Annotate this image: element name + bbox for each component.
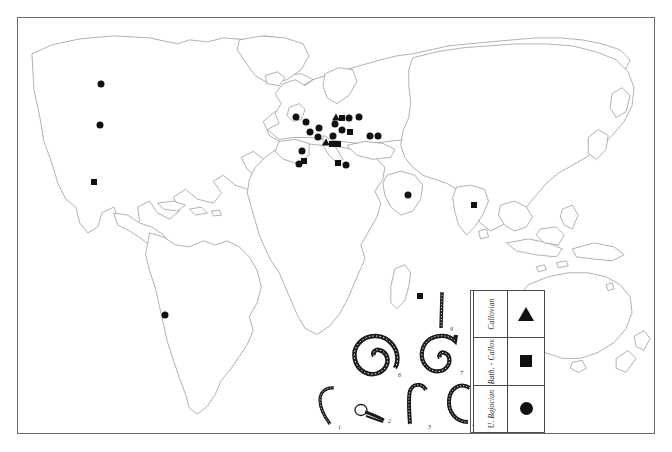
coast-puerto-rico — [211, 210, 221, 216]
fossil-illustration-plate: 1 2 3 — [314, 288, 474, 435]
fossil-num-2: 2 — [388, 418, 391, 424]
coast-new-guinea — [572, 243, 624, 261]
occurrence-marker-circle — [405, 192, 412, 199]
fossil-specimen-6 — [350, 332, 402, 380]
circle-marker-icon — [520, 402, 533, 415]
fossil-specimen-9 — [434, 290, 450, 332]
coast-india — [453, 185, 489, 235]
occurrence-marker-circle — [330, 133, 337, 140]
occurrence-marker-circle — [303, 119, 310, 126]
coast-sri-lanka — [479, 229, 489, 239]
fossil-num-6: 6 — [398, 372, 401, 378]
coast-south-america — [146, 233, 262, 414]
legend-label-bathonian-callovian: Bath. - Callov. — [486, 338, 495, 384]
fossil-num-1: 1 — [338, 424, 341, 430]
legend-label-cell-bathonian-callovian: Bath. - Callov. — [474, 338, 508, 384]
occurrence-marker-square — [335, 141, 341, 147]
legend-table: Callovian Bath. - Callov. U. Bajocian — [473, 290, 545, 433]
occurrence-marker-circle — [315, 134, 322, 141]
occurrence-marker-square — [339, 115, 345, 121]
fossil-shape-3 — [404, 380, 432, 428]
occurrence-marker-circle — [98, 81, 105, 88]
occurrence-marker-square — [91, 179, 97, 185]
legend-row-callovian: Callovian — [474, 291, 544, 338]
legend-label-cell-callovian: Callovian — [474, 291, 508, 337]
legend-symbol-cell-callovian — [508, 291, 544, 337]
occurrence-marker-circle — [367, 133, 374, 140]
legend-row-bathonian-callovian: Bath. - Callov. — [474, 338, 544, 385]
fossil-shape-1 — [316, 384, 342, 428]
coast-new-zealand — [634, 330, 650, 350]
fossil-shape-2 — [354, 402, 388, 424]
occurrence-marker-circle — [339, 127, 346, 134]
fossil-num-9: 9 — [450, 326, 453, 332]
coast-new-zealand-south — [616, 350, 636, 372]
coast-island-2 — [556, 261, 568, 268]
coast-tasmania — [570, 360, 586, 372]
occurrence-marker-circle — [316, 125, 323, 132]
figure-page: 1 2 3 — [0, 0, 672, 452]
fossil-num-7: 7 — [460, 370, 463, 376]
occurrence-marker-circle — [356, 114, 363, 121]
fossil-specimen-7 — [418, 332, 464, 380]
occurrence-marker-square — [471, 202, 477, 208]
occurrence-marker-circle — [307, 129, 314, 136]
occurrence-marker-circle — [299, 148, 306, 155]
fossil-num-3: 3 — [428, 424, 431, 430]
fossil-shape-9 — [434, 290, 450, 332]
triangle-marker-icon — [518, 307, 534, 321]
legend-symbol-cell-upper-bajocian — [508, 386, 544, 432]
legend-label-callovian: Callovian — [486, 298, 495, 329]
fossil-shape-7 — [418, 332, 464, 380]
coast-arabia — [383, 171, 423, 215]
coast-philippines — [560, 205, 578, 229]
occurrence-marker-circle — [296, 161, 303, 168]
occurrence-marker-square — [347, 129, 353, 135]
square-marker-icon — [520, 355, 532, 367]
legend-row-upper-bajocian: U. Bajocian — [474, 386, 544, 432]
fossil-specimen-3 — [404, 380, 432, 428]
occurrence-marker-circle — [346, 115, 353, 122]
occurrence-marker-circle — [332, 121, 339, 128]
occurrence-marker-circle — [375, 133, 382, 140]
occurrence-marker-circle — [293, 114, 300, 121]
occurrence-marker-circle — [97, 122, 104, 129]
occurrence-marker-circle — [162, 312, 169, 319]
coast-hispaniola — [189, 207, 207, 215]
occurrence-marker-circle — [343, 162, 350, 169]
coast-island-1 — [536, 265, 546, 272]
fossil-shape-6 — [350, 332, 402, 380]
occurrence-marker-square — [335, 160, 341, 166]
legend-symbol-cell-bathonian-callovian — [508, 338, 544, 384]
legend-label-cell-upper-bajocian: U. Bajocian — [474, 386, 508, 432]
map-frame: 1 2 3 — [17, 17, 655, 434]
fossil-specimen-2 — [354, 402, 388, 424]
legend-label-upper-bajocian: U. Bajocian — [486, 390, 495, 428]
fossil-specimen-1 — [316, 384, 342, 428]
